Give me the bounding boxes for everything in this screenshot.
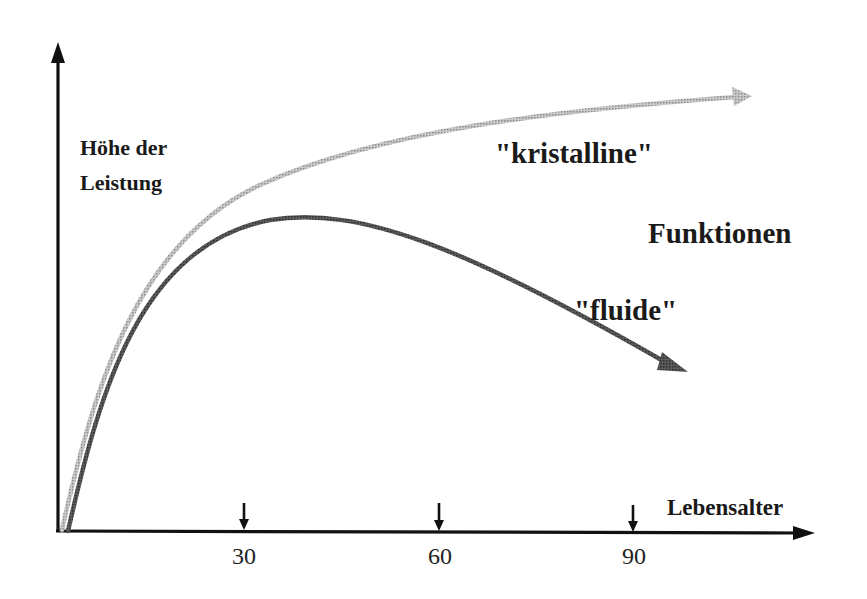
- fluid-label: "fluide": [574, 294, 677, 326]
- tick-label-30: 30: [232, 543, 256, 569]
- y-axis-label-line1: Höhe der: [80, 135, 168, 160]
- tick-marker-60: [434, 503, 444, 531]
- shared-functions-label: Funktionen: [648, 217, 791, 249]
- x-axis-arrow-icon: [793, 526, 815, 540]
- intelligence-lifespan-diagram: Höhe der Leistung "kristalline" Funktion…: [0, 0, 867, 599]
- y-axis: [51, 42, 65, 531]
- tick-marker-90: [628, 505, 638, 532]
- down-arrow-icon: [434, 520, 444, 531]
- x-axis: [56, 526, 815, 540]
- tick-marker-30: [239, 503, 249, 530]
- down-arrow-icon: [628, 521, 638, 532]
- y-axis-arrow-icon: [51, 42, 65, 63]
- y-axis-label-line2: Leistung: [80, 170, 162, 195]
- fluid-arrow-icon: [657, 352, 688, 372]
- crystalline-arrow-icon: [732, 87, 752, 106]
- tick-label-90: 90: [622, 543, 646, 569]
- x-axis-label: Lebensalter: [667, 495, 783, 520]
- tick-label-60: 60: [428, 543, 452, 569]
- down-arrow-icon: [239, 519, 249, 530]
- crystalline-label: "kristalline": [495, 137, 653, 169]
